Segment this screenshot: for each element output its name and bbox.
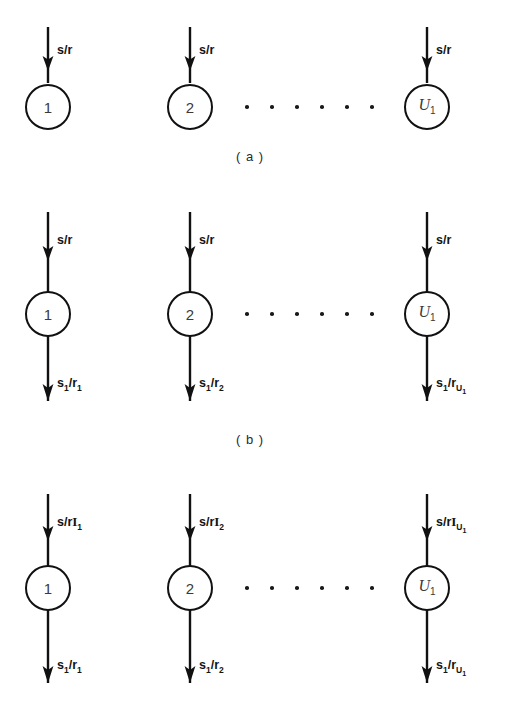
output-arrow-c-3 — [419, 609, 435, 685]
output-label-c-2: s1/r2 — [199, 659, 224, 674]
input-label-b-2-text: s/r — [199, 233, 214, 247]
output-label-b-1: s1/r1 — [57, 377, 82, 392]
input-label-b-2: s/r — [199, 234, 214, 247]
input-label-b-1: s/r — [57, 234, 72, 247]
panel-c: s/rI1 1 s1/r1 s/rI2 2 — [0, 488, 516, 722]
node-a-1-label: 1 — [44, 100, 52, 115]
input-arrow-b-2 — [182, 212, 198, 302]
ellipsis-dot — [345, 105, 349, 109]
node-c-1: 1 — [25, 565, 71, 611]
input-arrow-b-1 — [40, 212, 56, 302]
input-label-a-1: s/r — [57, 44, 72, 57]
ellipsis-dots-b — [245, 312, 374, 316]
node-a-2-label: 2 — [186, 100, 194, 115]
node-c-1-label: 1 — [44, 581, 52, 596]
output-arrow-c-2 — [182, 609, 198, 685]
ellipsis-dot — [370, 586, 374, 590]
node-a-3: U1 — [404, 84, 450, 130]
output-arrow-b-3 — [419, 335, 435, 403]
ellipsis-dot — [295, 105, 299, 109]
ellipsis-dot — [270, 312, 274, 316]
node-b-3: U1 — [404, 291, 450, 337]
input-arrow-a-1 — [40, 27, 56, 87]
input-label-a-3-text: s/r — [436, 43, 451, 57]
input-arrow-a-3 — [419, 27, 435, 87]
ellipsis-dot — [320, 312, 324, 316]
output-arrow-b-1 — [40, 335, 56, 403]
nested-subscript: U1 — [456, 665, 466, 675]
node-c-2-label: 2 — [186, 581, 194, 596]
output-label-b-3: s1/rU1 — [436, 377, 466, 394]
ellipsis-dot — [270, 105, 274, 109]
input-arrow-a-2 — [182, 27, 198, 87]
ellipsis-dot — [245, 105, 249, 109]
input-label-b-1-text: s/r — [57, 233, 72, 247]
node-b-2: 2 — [167, 291, 213, 337]
panel-b: s/r 1 s1/r1 s/r 2 — [0, 205, 516, 460]
ellipsis-dot — [295, 586, 299, 590]
input-label-a-3: s/r — [436, 44, 451, 57]
ellipsis-dots-c — [245, 586, 374, 590]
panel-a-caption: ( a ) — [205, 149, 295, 164]
input-label-c-1: s/rI1 — [57, 515, 82, 531]
input-label-c-3: s/rIU1 — [436, 515, 466, 533]
nested-subscript: U1 — [456, 522, 466, 532]
panel-b-caption: ( b ) — [205, 432, 295, 447]
input-arrow-b-3 — [419, 212, 435, 302]
input-label-c-2: s/rI2 — [199, 515, 224, 531]
input-label-a-2: s/r — [199, 44, 214, 57]
ellipsis-dot — [245, 586, 249, 590]
ellipsis-dot — [345, 312, 349, 316]
output-label-b-2: s1/r2 — [199, 377, 224, 392]
node-a-3-label: U1 — [418, 97, 435, 116]
panel-a: s/r 1 s/r 2 — [0, 0, 516, 185]
figure-three-panel-queue-diagram: s/r 1 s/r 2 — [0, 0, 516, 722]
ellipsis-dot — [370, 105, 374, 109]
ellipsis-dot — [320, 105, 324, 109]
ellipsis-dot — [370, 312, 374, 316]
ellipsis-dot — [270, 586, 274, 590]
ellipsis-dot — [295, 312, 299, 316]
output-arrow-b-2 — [182, 335, 198, 403]
input-label-b-3: s/r — [436, 234, 451, 247]
output-label-c-3: s1/rU1 — [436, 659, 466, 676]
node-b-2-label: 2 — [186, 307, 194, 322]
ellipsis-dot — [245, 312, 249, 316]
ellipsis-dot — [320, 586, 324, 590]
node-b-1: 1 — [25, 291, 71, 337]
nested-subscript: U1 — [456, 383, 466, 393]
node-a-2: 2 — [167, 84, 213, 130]
node-b-3-label: U1 — [418, 304, 435, 323]
output-label-c-1: s1/r1 — [57, 659, 82, 674]
node-a-1: 1 — [25, 84, 71, 130]
output-arrow-c-1 — [40, 609, 56, 685]
input-label-b-3-text: s/r — [436, 233, 451, 247]
ellipsis-dots-a — [245, 105, 374, 109]
node-c-3-label: U1 — [418, 578, 435, 597]
node-c-3: U1 — [404, 565, 450, 611]
node-c-2: 2 — [167, 565, 213, 611]
ellipsis-dot — [345, 586, 349, 590]
input-label-a-2-text: s/r — [199, 43, 214, 57]
input-label-a-1-text: s/r — [57, 43, 72, 57]
node-b-1-label: 1 — [44, 307, 52, 322]
